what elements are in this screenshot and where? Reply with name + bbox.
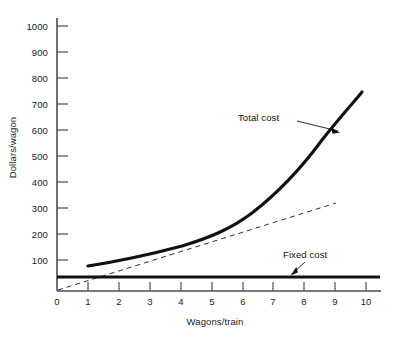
annotation-fixed-cost: Fixed cost [283, 249, 327, 260]
x-tick-label-7: 7 [263, 296, 283, 307]
y-tick-label-300: 300 [8, 203, 48, 214]
x-tick-label-0: 0 [47, 296, 67, 307]
x-tick-label-5: 5 [202, 296, 222, 307]
plot-canvas [0, 0, 404, 342]
x-tick-label-6: 6 [233, 296, 253, 307]
x-axis-title: Wagons/train [160, 316, 270, 327]
annotation-total-cost: Total cost [238, 112, 279, 123]
x-tick-label-3: 3 [140, 296, 160, 307]
y-tick-label-200: 200 [8, 229, 48, 240]
x-tick-label-2: 2 [109, 296, 129, 307]
x-tick-label-9: 9 [325, 296, 345, 307]
y-tick-label-800: 800 [8, 73, 48, 84]
x-tick-label-8: 8 [294, 296, 314, 307]
y-tick-label-900: 900 [8, 47, 48, 58]
fixed-cost-leader [291, 262, 305, 275]
y-axis-title: Dollars/wagon [7, 103, 18, 193]
series-total-cost-line [88, 92, 362, 266]
y-axis-ticks [57, 26, 68, 260]
y-tick-label-1000: 1000 [8, 21, 48, 32]
chart-figure: 1000 900 800 700 600 500 400 300 200 100… [0, 0, 404, 342]
x-tick-label-1: 1 [78, 296, 98, 307]
y-tick-label-100: 100 [8, 255, 48, 266]
x-tick-label-4: 4 [171, 296, 191, 307]
x-tick-label-10: 10 [356, 296, 376, 307]
x-axis-ticks [88, 282, 366, 291]
